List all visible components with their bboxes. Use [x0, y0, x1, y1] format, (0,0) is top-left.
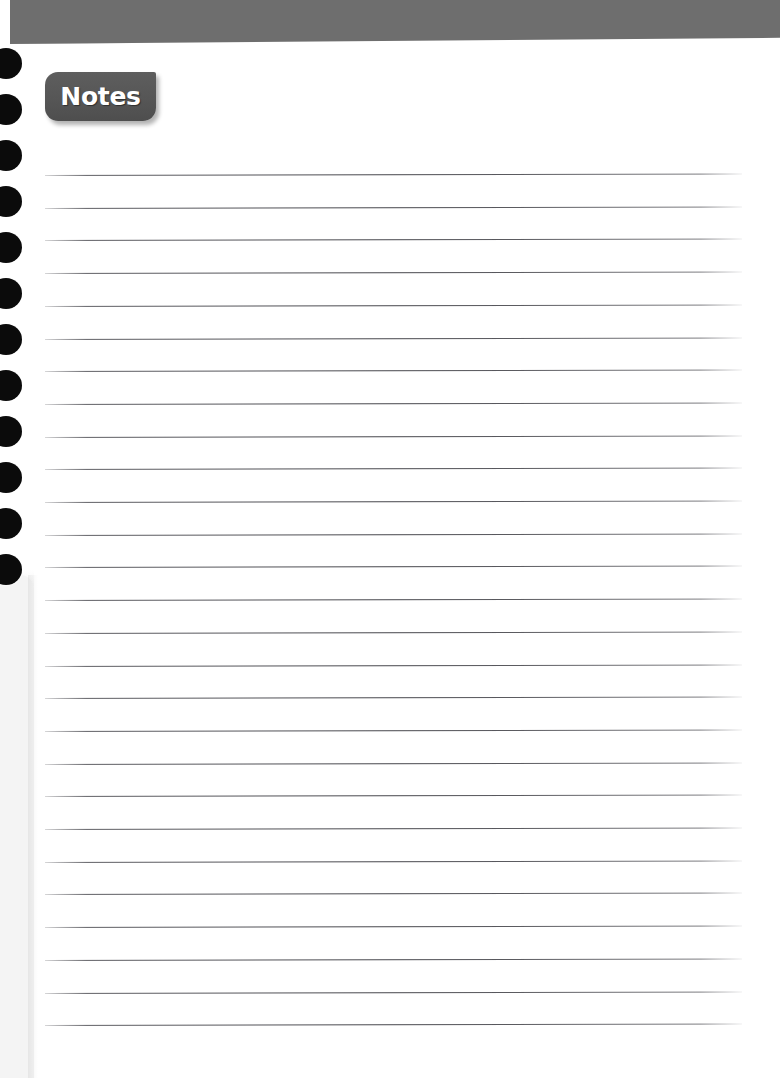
rule-line: [45, 828, 742, 830]
rule-line: [45, 305, 742, 307]
rule-line: [45, 763, 742, 765]
rule-line: [45, 207, 742, 209]
rule-line: [45, 174, 742, 176]
rule-line: [45, 534, 742, 536]
rule-line: [45, 632, 742, 634]
rule-line: [45, 370, 742, 372]
rule-line: [45, 926, 742, 928]
rule-line: [45, 501, 742, 503]
rule-line: [45, 959, 742, 961]
ruled-lines-area[interactable]: [0, 0, 780, 1078]
rule-line: [45, 436, 742, 438]
rule-line: [45, 697, 742, 699]
rule-line: [45, 1024, 742, 1026]
rule-line: [45, 272, 742, 274]
rule-line: [45, 893, 742, 895]
rule-line: [45, 665, 742, 667]
rule-line: [45, 239, 742, 241]
rule-line: [45, 468, 742, 470]
rule-line: [45, 795, 742, 797]
rule-line: [45, 403, 742, 405]
rule-line: [45, 730, 742, 732]
notes-page: Notes: [0, 0, 780, 1078]
rule-line: [45, 861, 742, 863]
rule-line: [45, 992, 742, 994]
rule-line: [45, 566, 742, 568]
rule-line: [45, 338, 742, 340]
rule-line: [45, 599, 742, 601]
